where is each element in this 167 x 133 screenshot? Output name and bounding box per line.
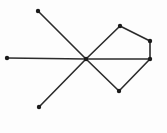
graph-node	[36, 9, 40, 13]
graph-node	[148, 39, 152, 43]
graph-figure	[0, 0, 167, 133]
graph-node	[118, 24, 122, 28]
graph-node	[148, 57, 152, 61]
graph-canvas	[0, 0, 167, 133]
graph-node	[5, 56, 9, 60]
graph-node	[37, 105, 41, 109]
graph-edge	[7, 58, 86, 59]
graph-node	[84, 57, 88, 61]
graph-node	[117, 89, 121, 93]
